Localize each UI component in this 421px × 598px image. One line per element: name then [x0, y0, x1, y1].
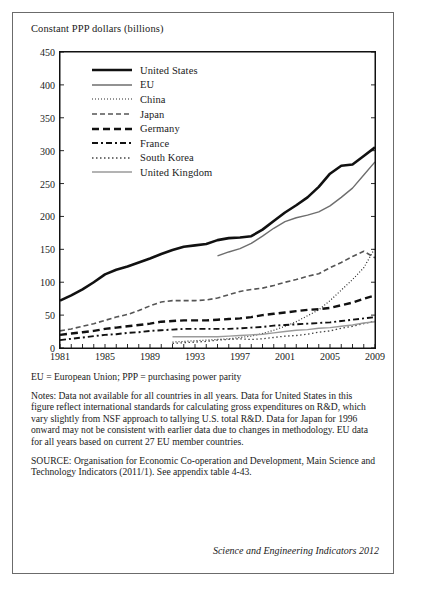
y-tick-label: 100 [25, 277, 55, 288]
y-tick-label: 200 [25, 211, 55, 222]
x-tick-label: 1993 [185, 351, 205, 362]
legend-label: Japan [140, 109, 164, 120]
legend-label: China [140, 94, 166, 105]
y-tick-label: 400 [25, 79, 55, 90]
axis-title: Constant PPP dollars (billions) [31, 23, 164, 34]
y-axis-tick-labels: 050100150200250300350400450 [21, 51, 55, 349]
legend-item-united-kingdom[interactable]: United Kingdom [91, 165, 241, 180]
legend-line-swatch-icon [91, 64, 133, 76]
legend-label: France [140, 138, 169, 149]
source-paragraph: SOURCE: Organisation for Economic Co-ope… [31, 455, 377, 478]
legend-item-france[interactable]: France [91, 136, 241, 151]
legend-label: United States [140, 65, 198, 76]
legend-label: United Kingdom [140, 167, 212, 178]
y-tick-label: 150 [25, 244, 55, 255]
legend-line-swatch-icon [91, 137, 133, 149]
y-tick-label: 50 [25, 310, 55, 321]
x-tick-label: 2001 [275, 351, 295, 362]
abbreviation-note: EU = European Union; PPP = purchasing po… [31, 371, 377, 383]
x-tick-label: 2005 [320, 351, 340, 362]
legend-line-swatch-icon [91, 123, 133, 135]
legend-label: South Korea [140, 152, 194, 163]
series-line-eu [218, 162, 376, 256]
legend-item-south-korea[interactable]: South Korea [91, 151, 241, 166]
y-tick-label: 300 [25, 145, 55, 156]
legend-line-swatch-icon [91, 166, 133, 178]
legend-item-germany[interactable]: Germany [91, 121, 241, 136]
legend-line-swatch-icon [91, 79, 133, 91]
x-tick-label: 2009 [365, 351, 385, 362]
figure-panel: Constant PPP dollars (billions) 05010015… [12, 12, 394, 574]
x-tick-label: 1997 [230, 351, 250, 362]
chart-legend: United StatesEUChinaJapanGermanyFranceSo… [91, 63, 241, 180]
x-tick-label: 1981 [50, 351, 70, 362]
legend-item-united-states[interactable]: United States [91, 63, 241, 78]
x-tick-label: 1989 [140, 351, 160, 362]
y-tick-label: 350 [25, 112, 55, 123]
legend-item-china[interactable]: China [91, 92, 241, 107]
legend-label: Germany [140, 123, 180, 134]
legend-item-japan[interactable]: Japan [91, 107, 241, 122]
figure-notes: EU = European Union; PPP = purchasing po… [31, 371, 377, 478]
publication-credit: Science and Engineering Indicators 2012 [31, 545, 379, 556]
legend-line-swatch-icon [91, 93, 133, 105]
legend-line-swatch-icon [91, 108, 133, 120]
x-tick-label: 1985 [95, 351, 115, 362]
x-axis-tick-labels: 19811985198919931997200120052009 [59, 351, 376, 367]
legend-line-swatch-icon [91, 152, 133, 164]
y-tick-label: 250 [25, 178, 55, 189]
notes-paragraph: Notes: Data not available for all countr… [31, 390, 377, 448]
y-tick-label: 450 [25, 47, 55, 58]
legend-label: EU [140, 79, 154, 90]
legend-item-eu[interactable]: EU [91, 78, 241, 93]
